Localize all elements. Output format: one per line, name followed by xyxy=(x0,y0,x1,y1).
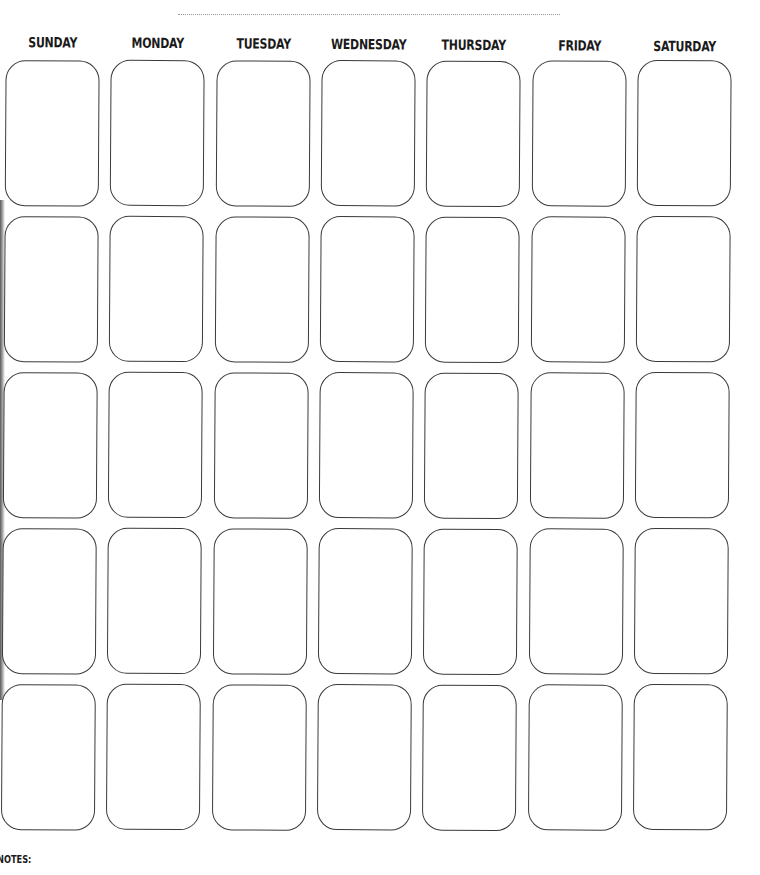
day-cell[interactable] xyxy=(636,216,731,363)
day-label-thursday: THURSDAY xyxy=(435,37,513,53)
day-cell[interactable] xyxy=(3,372,98,519)
calendar-sheet: SUNDAYMONDAYTUESDAYWEDNESDAYTHURSDAYFRID… xyxy=(0,0,760,875)
day-cell[interactable] xyxy=(424,372,519,519)
day-label-monday: MONDAY xyxy=(119,35,197,51)
day-cell[interactable] xyxy=(321,60,416,207)
day-cell[interactable] xyxy=(530,216,625,363)
day-cell[interactable] xyxy=(212,684,307,831)
day-cell[interactable] xyxy=(106,684,201,831)
day-cell[interactable] xyxy=(637,60,732,207)
day-cell[interactable] xyxy=(317,684,412,831)
day-cell[interactable] xyxy=(527,684,622,831)
day-cell[interactable] xyxy=(425,216,520,363)
day-cell[interactable] xyxy=(2,528,97,675)
day-cell[interactable] xyxy=(634,528,729,675)
calendar-grid xyxy=(0,0,760,5)
day-cell[interactable] xyxy=(633,684,728,831)
day-cell[interactable] xyxy=(5,60,100,207)
day-cell[interactable] xyxy=(107,528,202,675)
day-cell[interactable] xyxy=(109,216,204,363)
day-label-wednesday: WEDNESDAY xyxy=(330,36,408,52)
day-cell[interactable] xyxy=(422,684,517,831)
day-cell[interactable] xyxy=(214,216,309,363)
day-cell[interactable] xyxy=(531,60,626,207)
day-cell[interactable] xyxy=(213,372,308,519)
day-cell[interactable] xyxy=(1,684,96,831)
day-cell[interactable] xyxy=(4,216,99,363)
day-cell[interactable] xyxy=(635,372,730,519)
day-cell[interactable] xyxy=(108,372,203,519)
day-cell[interactable] xyxy=(426,60,521,207)
day-cell[interactable] xyxy=(110,60,205,207)
day-cell[interactable] xyxy=(320,216,415,363)
day-label-tuesday: TUESDAY xyxy=(224,35,302,51)
day-label-saturday: SATURDAY xyxy=(645,38,723,54)
day-cell[interactable] xyxy=(319,372,414,519)
weekday-header: SUNDAYMONDAYTUESDAYWEDNESDAYTHURSDAYFRID… xyxy=(0,0,760,5)
day-cell[interactable] xyxy=(423,528,518,675)
day-cell[interactable] xyxy=(318,528,413,675)
day-label-sunday: SUNDAY xyxy=(14,34,92,50)
day-label-friday: FRIDAY xyxy=(540,37,618,53)
day-cell[interactable] xyxy=(215,60,310,207)
day-cell[interactable] xyxy=(212,528,307,675)
day-cell[interactable] xyxy=(528,528,623,675)
notes-label: NOTES: xyxy=(0,853,31,866)
day-cell[interactable] xyxy=(529,372,624,519)
